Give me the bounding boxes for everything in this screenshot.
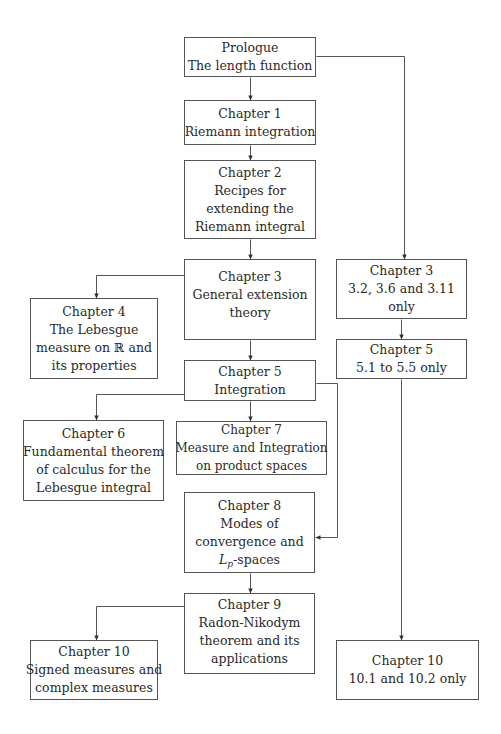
node-line: Riemann integral (195, 218, 305, 236)
node-title: Chapter 9 (218, 596, 281, 614)
node-chapter-5-partial: Chapter 5 5.1 to 5.5 only (336, 339, 467, 379)
edge-ch8-to-ch9 (248, 574, 252, 594)
edge-ch1-to-ch2 (248, 146, 252, 161)
node-line: The Lebesgue (50, 321, 139, 339)
node-title: Chapter 3 (370, 262, 433, 280)
node-chapter-3-partial: Chapter 3 3.2, 3.6 and 3.11 only (336, 259, 467, 319)
node-line: Radon-Nikodym (199, 614, 301, 632)
node-line: complex measures (35, 679, 153, 697)
node-line: Riemann integration (185, 123, 316, 141)
node-line: Signed measures and (26, 661, 162, 679)
edge-ch9-to-ch10 (94, 607, 184, 641)
node-line: Lebesgue integral (36, 479, 151, 497)
node-line: applications (211, 650, 288, 668)
node-line: 3.2, 3.6 and 3.11 (348, 280, 455, 298)
node-line: extending the (206, 200, 293, 218)
arrowhead-icon (316, 535, 321, 539)
node-chapter-7: Chapter 7 Measure and Integration on pro… (176, 421, 327, 475)
node-chapter-10-partial: Chapter 10 10.1 and 10.2 only (336, 640, 479, 700)
edge-ch3-to-ch5 (248, 341, 252, 361)
node-title: Prologue (222, 39, 279, 57)
node-title: Chapter 10 (58, 643, 129, 661)
node-line: convergence and (195, 533, 303, 551)
node-line: The length function (188, 57, 313, 75)
node-chapter-1: Chapter 1 Riemann integration (184, 100, 316, 145)
node-line: measure on ℝ and (36, 339, 152, 357)
node-title: Chapter 4 (62, 303, 125, 321)
node-line: of calculus for the (36, 461, 151, 479)
node-chapter-9: Chapter 9 Radon-Nikodym theorem and its … (184, 593, 315, 674)
edge-ch3-to-ch4 (94, 276, 184, 299)
edge-ch5-partial-to-ch10-partial (399, 380, 403, 641)
math-suffix: -spaces (233, 552, 280, 567)
node-line: theorem and its (199, 632, 299, 650)
node-line-lp-spaces: Lp-spaces (219, 551, 280, 569)
node-line: General extension (192, 286, 307, 304)
chapter-flowchart: Prologue The length function Chapter 1 R… (0, 0, 501, 734)
node-line: on product spaces (196, 457, 307, 475)
edge-ch3-partial-to-ch5-partial (399, 320, 403, 340)
edge-line (97, 607, 185, 641)
node-chapter-2: Chapter 2 Recipes for extending the Riem… (184, 160, 316, 239)
node-line: 10.1 and 10.2 only (349, 670, 467, 688)
edge-line (97, 395, 185, 421)
node-line: Measure and Integration (175, 439, 327, 457)
node-chapter-3: Chapter 3 General extension theory (184, 259, 316, 340)
node-line: Fundamental theorem (23, 443, 164, 461)
edge-ch2-to-ch3 (248, 240, 252, 260)
edge-prologue-to-ch3-partial (317, 57, 407, 260)
edge-prologue-to-ch1 (248, 78, 252, 101)
node-prologue: Prologue The length function (184, 37, 316, 77)
node-line: Modes of (220, 515, 278, 533)
node-title: Chapter 5 (218, 363, 281, 381)
node-title: Chapter 8 (218, 497, 281, 515)
node-chapter-8: Chapter 8 Modes of convergence and Lp-sp… (184, 492, 315, 573)
node-line: only (388, 298, 415, 316)
node-title: Chapter 7 (221, 421, 282, 439)
node-chapter-4: Chapter 4 The Lebesgue measure on ℝ and … (30, 298, 158, 379)
node-chapter-10: Chapter 10 Signed measures and complex m… (30, 640, 158, 700)
edge-line (97, 276, 185, 299)
node-line: Recipes for (214, 182, 286, 200)
node-chapter-6: Chapter 6 Fundamental theorem of calculu… (23, 420, 164, 501)
node-line: theory (229, 304, 270, 322)
edge-ch5-to-ch7 (248, 402, 252, 422)
node-title: Chapter 10 (372, 652, 443, 670)
node-title: Chapter 3 (218, 268, 281, 286)
node-title: Chapter 1 (218, 105, 281, 123)
node-title: Chapter 5 (370, 341, 433, 359)
node-chapter-5: Chapter 5 Integration (184, 360, 316, 401)
edge-line (317, 57, 405, 260)
node-title: Chapter 2 (218, 164, 281, 182)
node-title: Chapter 6 (62, 425, 125, 443)
node-line: Integration (214, 381, 285, 399)
edge-ch5-to-ch6 (94, 395, 184, 421)
node-line: 5.1 to 5.5 only (356, 359, 447, 377)
node-line: its properties (51, 357, 136, 375)
